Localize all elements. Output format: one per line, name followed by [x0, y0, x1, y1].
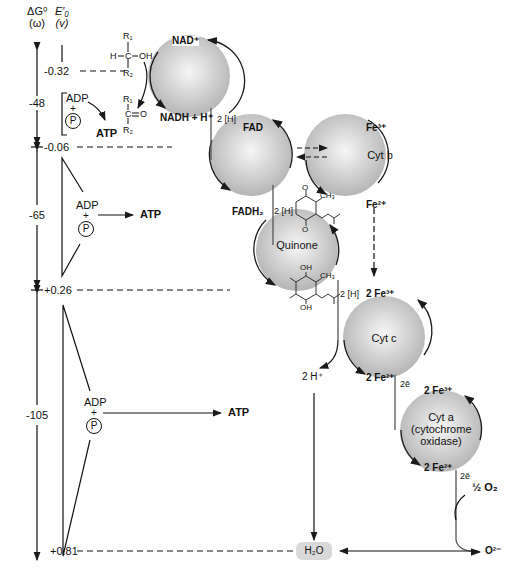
hydroquinone-hydroxyl: OH	[300, 264, 312, 272]
cytc-label: Cyt c	[364, 333, 404, 344]
potential-label: -0.06	[44, 142, 69, 153]
cytb-fe2-label: Fe²⁺	[366, 200, 386, 210]
cyta-label: Cyt a	[411, 412, 471, 423]
oxide-label: O²⁻	[485, 546, 501, 556]
transfer-label: 2 [H]	[217, 115, 236, 124]
free-energy-axis	[31, 50, 43, 560]
potential-label: +0.26	[44, 285, 72, 296]
phosphate-label: P	[67, 116, 79, 126]
atp-arrow-1	[88, 102, 105, 120]
hydroquinone-methyl: CH₃	[320, 272, 335, 280]
dg-header: ΔG⁰	[24, 6, 50, 17]
atp-label: ATP	[96, 128, 117, 139]
cytb-fe3-label: Fe³⁺	[366, 123, 386, 133]
oxygen-label: ½ O₂	[472, 482, 498, 493]
water-label: H₂O	[296, 546, 332, 556]
proton-release-arrow	[320, 340, 338, 368]
potential-label: +0.81	[50, 546, 78, 557]
quinone-label: Quinone	[272, 240, 322, 251]
transfer-label: 2 [H]	[274, 207, 293, 216]
cyta-label-line2: (cytochrome	[411, 424, 471, 435]
fadh2-label: FADH₂	[232, 207, 264, 217]
potential-label: -0.32	[44, 66, 69, 77]
free-energy-value: -105	[24, 410, 50, 421]
protons-label: 2 H⁺	[302, 372, 323, 382]
phosphate-label: P	[88, 421, 100, 431]
r2-label: R₂	[123, 69, 133, 78]
free-energy-value: -65	[26, 210, 48, 221]
plus-label: +	[70, 104, 76, 114]
diagram-canvas	[0, 0, 523, 583]
cytc-fe3-label: 2 Fe³⁺	[366, 289, 394, 299]
free-energy-value: -48	[26, 98, 48, 109]
carbon-label: C	[125, 110, 132, 119]
oxygen-label: O	[140, 110, 147, 119]
nad-oxidized-label: NAD⁺	[172, 36, 199, 46]
nadh-label: NADH + H⁺	[160, 113, 213, 123]
quinone-methyl: CH₃	[320, 192, 335, 200]
quinone-oxygen: O	[302, 184, 308, 192]
plus-label: +	[83, 211, 89, 221]
atp-label: ATP	[228, 407, 249, 418]
r1-label: R₁	[123, 95, 133, 104]
cyta-fe2-label: 2 Fe²⁺	[424, 463, 452, 473]
cytb-label: Cyt b	[360, 150, 400, 161]
carbon-label: C	[125, 52, 132, 61]
plus-label: +	[91, 408, 97, 418]
hydrogen-label: H	[110, 52, 117, 61]
phosphate-label: P	[80, 224, 92, 234]
hydroquinone-hydroxyl: OH	[300, 304, 312, 312]
cyta-fe3-label: 2 Fe³⁺	[424, 386, 452, 396]
fad-label: FAD	[243, 123, 263, 133]
cyta-label-line3: oxidase)	[411, 436, 471, 447]
electron-transfer-label: 2ē	[460, 472, 470, 481]
substrate-oxidation-arrow	[138, 62, 147, 108]
cytc-fe2-label: 2 Fe²⁺	[366, 373, 394, 383]
e0-unit: (v)	[52, 18, 72, 29]
hydroxyl-label: OH	[139, 52, 153, 61]
e0-header: E′₀	[52, 6, 72, 17]
quinone-oxygen: O	[302, 226, 308, 234]
transfer-label: 2 [H]	[340, 290, 359, 299]
electron-transfer-label: 2ē	[400, 380, 410, 389]
coupling-triangles	[62, 93, 90, 556]
dg-unit: (ω)	[24, 18, 50, 29]
r2-label: R₂	[123, 126, 133, 135]
nad-sphere	[148, 35, 230, 117]
r1-label: R₁	[123, 32, 133, 41]
atp-label: ATP	[140, 209, 161, 220]
